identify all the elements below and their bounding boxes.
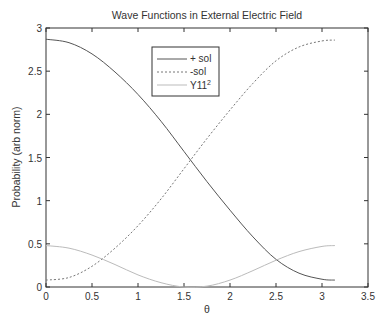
y-tick-label: 0.5 [28,239,42,250]
legend-item-y11: Y11 [190,80,207,91]
y-tick-label: 2.5 [28,66,42,77]
x-tick-label: 0.5 [85,291,99,302]
x-axis-label: θ [204,303,210,315]
x-tick-label: 1 [135,291,141,302]
y-axis-label: Probability (arb norm) [10,107,22,208]
legend-item-plus-sol: + sol [190,53,211,64]
y-tick-label: 2 [36,109,42,120]
chart-title: Wave Functions in External Electric Fiel… [112,9,303,21]
y-tick-label: 1.5 [28,153,42,164]
x-tick-label: 2 [227,291,233,302]
x-tick-label: 1.5 [177,291,191,302]
y-tick-label: 1 [36,196,42,207]
y-tick-label: 3 [36,23,42,34]
legend-item-minus-sol: -sol [190,66,206,77]
x-tick-label: 2.5 [269,291,283,302]
x-tick-label: 0 [43,291,49,302]
chart: Wave Functions in External Electric Fiel… [0,0,387,327]
x-tick-label: 3 [319,291,325,302]
y-tick-label: 0 [36,282,42,293]
legend: + sol -sol Y112 [152,47,219,96]
x-tick-label: 3.5 [361,291,375,302]
legend-item-y11-sup: 2 [207,79,211,86]
